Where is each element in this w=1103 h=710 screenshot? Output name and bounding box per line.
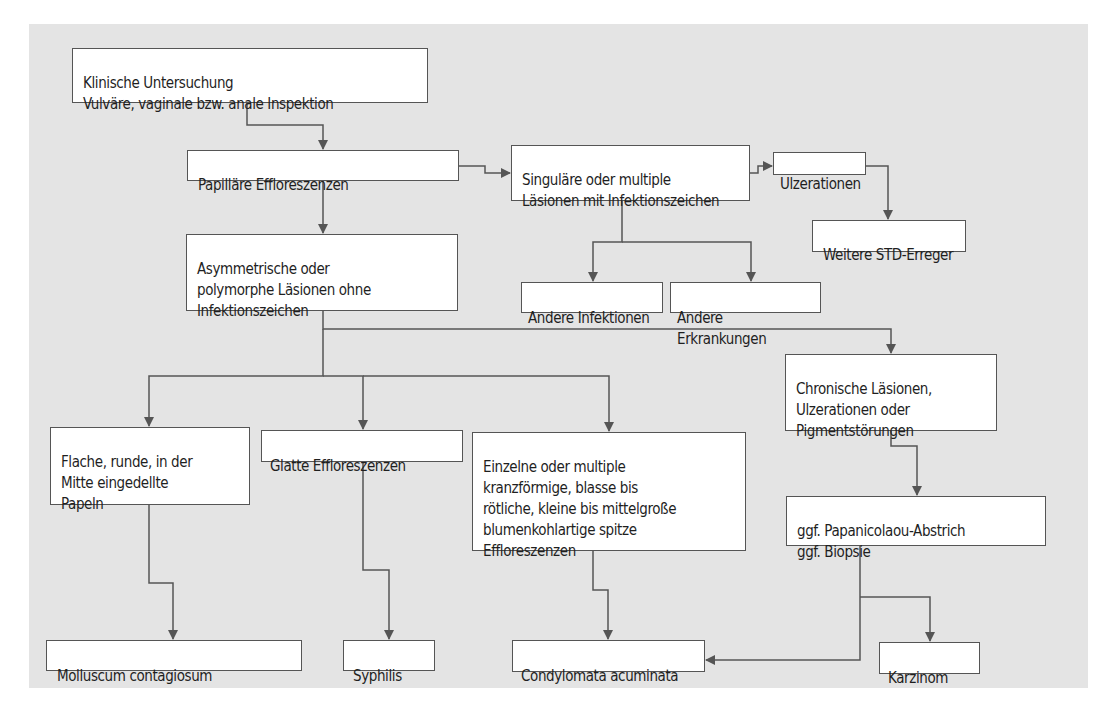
node-other-diseases: Andere Erkrankungen (670, 282, 821, 313)
node-label: Karzinom (888, 668, 971, 689)
node-label: Andere Infektionen (528, 308, 656, 329)
node-label: Einzelne oder multiple kranzförmige, bla… (483, 457, 735, 562)
node-label: Asymmetrische oder polymorphe Läsionen o… (197, 259, 447, 322)
node-label: Condylomata acuminata (521, 666, 696, 687)
edge-papillary-infection (459, 166, 510, 173)
node-molluscum: Molluscum contagiosum (46, 640, 302, 671)
node-pap-biopsy: ggf. Papanicolaou-Abstrich ggf. Biopsie (786, 496, 1046, 546)
node-label: Flache, runde, in der Mitte eingedellte … (61, 452, 239, 515)
edge-asymmetric-children (149, 329, 323, 426)
node-chronic: Chronische Läsionen, Ulzerationen oder P… (785, 354, 997, 431)
node-papillary: Papilläre Effloreszenzen (187, 150, 459, 181)
node-condylomata: Condylomata acuminata (512, 640, 705, 672)
node-syphilis: Syphilis (343, 640, 435, 671)
node-single-multiple: Einzelne oder multiple kranzförmige, bla… (472, 432, 746, 551)
node-start: Klinische Untersuchung Vulväre, vaginale… (72, 48, 428, 103)
node-smooth: Glatte Effloreszenzen (261, 430, 463, 462)
node-label: ggf. Papanicolaou-Abstrich ggf. Biopsie (797, 521, 1035, 563)
node-asymmetric: Asymmetrische oder polymorphe Läsionen o… (186, 234, 458, 311)
node-label: Chronische Läsionen, Ulzerationen oder P… (796, 379, 986, 442)
node-label: Singuläre oder multiple Läsionen mit Inf… (522, 170, 739, 212)
node-label: Molluscum contagiosum (57, 666, 291, 687)
node-infection-signs: Singuläre oder multiple Läsionen mit Inf… (511, 145, 750, 201)
node-ulcerations: Ulzerationen (773, 152, 866, 175)
node-other-std: Weitere STD-Erreger (812, 220, 966, 252)
node-label: Syphilis (353, 666, 425, 687)
node-label: Andere Erkrankungen (677, 308, 814, 350)
node-label: Papilläre Effloreszenzen (198, 175, 448, 196)
edge-ulcerations-otherstd (866, 166, 888, 219)
node-carcinoma: Karzinom (879, 642, 980, 674)
edge-pap-carcinoma (860, 597, 930, 641)
node-label: Weitere STD-Erreger (823, 245, 955, 266)
edge-infection-ulcerations (750, 166, 772, 173)
node-label: Glatte Effloreszenzen (270, 456, 454, 477)
node-label: Ulzerationen (780, 174, 859, 195)
node-label: Klinische Untersuchung Vulväre, vaginale… (83, 73, 417, 115)
node-flat-round: Flache, runde, in der Mitte eingedellte … (50, 427, 250, 505)
node-other-infections: Andere Infektionen (521, 282, 663, 313)
